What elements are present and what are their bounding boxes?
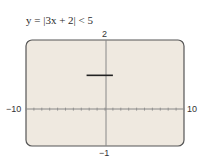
x-max-label: 10 — [187, 105, 197, 114]
x-min-label: −10 — [6, 105, 21, 114]
graph-window — [0, 0, 206, 161]
y-min-label: −1 — [99, 149, 109, 158]
y-max-label: 2 — [102, 30, 107, 39]
x-axis-ticks — [26, 108, 184, 111]
plot-frame — [26, 40, 184, 146]
